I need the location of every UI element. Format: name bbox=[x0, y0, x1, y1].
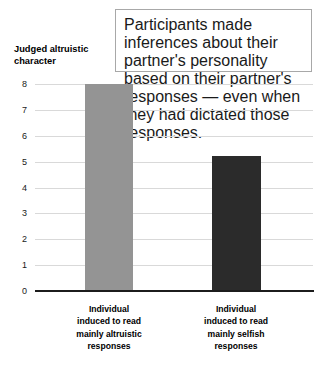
gridline-7 bbox=[35, 110, 313, 111]
y-tick-label-8: 8 bbox=[22, 80, 32, 89]
gridline-8 bbox=[35, 84, 313, 85]
y-tick-label-6: 6 bbox=[22, 132, 32, 141]
x-axis-category-labels: Individual induced to read mainly altrui… bbox=[22, 303, 313, 365]
y-axis-title: Judged altruistic character bbox=[14, 44, 114, 68]
bar-altruistic bbox=[85, 84, 133, 290]
y-tick-label-2: 2 bbox=[22, 235, 32, 244]
gridline-2 bbox=[35, 239, 313, 240]
y-tick-label-5: 5 bbox=[22, 158, 32, 167]
y-tick-label-1: 1 bbox=[22, 261, 32, 270]
category-label-altruistic: Individual induced to read mainly altrui… bbox=[51, 303, 167, 352]
gridline-3 bbox=[35, 213, 313, 214]
gridline-4 bbox=[35, 188, 313, 189]
annotation-callout: Participants made inferences about their… bbox=[115, 9, 312, 72]
x-axis-line bbox=[35, 290, 314, 292]
y-tick-label-4: 4 bbox=[22, 184, 32, 193]
plot-area: 8 7 6 5 4 3 2 1 0 bbox=[22, 80, 313, 295]
y-tick-label-7: 7 bbox=[22, 106, 32, 115]
gridline-5 bbox=[35, 162, 313, 163]
gridline-1 bbox=[35, 265, 313, 266]
bar-selfish bbox=[212, 156, 261, 290]
gridline-6 bbox=[35, 136, 313, 137]
y-tick-label-0: 0 bbox=[22, 287, 32, 296]
y-tick-label-3: 3 bbox=[22, 209, 32, 218]
category-label-selfish: Individual induced to read mainly selfis… bbox=[178, 303, 294, 352]
